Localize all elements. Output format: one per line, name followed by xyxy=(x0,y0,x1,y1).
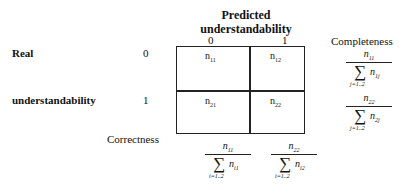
formula-denominator: ∑ n1j j=1..2 xyxy=(346,64,392,86)
sigma-icon: ∑ xyxy=(213,154,225,174)
completeness-formula-row-1: n11 ∑ n1j j=1..2 xyxy=(346,48,392,86)
row-label-real: Real xyxy=(12,47,33,59)
correctness-formula-col-1: n11 ∑ ni1 i=1..2 xyxy=(205,140,251,178)
cell-n21: n21 xyxy=(205,95,216,108)
column-header-1: 1 xyxy=(282,34,288,46)
confusion-matrix: n11 n12 n21 n22 xyxy=(176,46,305,134)
formula-numerator: n11 xyxy=(346,48,392,61)
correctness-formula-col-2: n22 ∑ ni2 i=1..2 xyxy=(271,140,317,178)
row-header-1: 1 xyxy=(143,94,149,106)
sigma-icon: ∑ xyxy=(279,154,291,174)
completeness-formula-row-2: n22 ∑ n2j j=1..2 xyxy=(346,92,392,130)
matrix-horizontal-divider xyxy=(177,90,304,92)
completeness-label: Completeness xyxy=(331,35,393,47)
predicted-title: Predicted understandability xyxy=(196,8,296,37)
formula-numerator: n22 xyxy=(346,92,392,105)
cell-n12: n12 xyxy=(270,50,281,63)
row-header-0: 0 xyxy=(143,47,149,59)
sigma-icon: ∑ xyxy=(354,62,366,82)
row-label-understandability: understandability xyxy=(12,94,96,106)
cell-n11: n11 xyxy=(205,50,216,63)
formula-denominator: ∑ ni2 i=1..2 xyxy=(271,156,317,178)
fraction-bar xyxy=(346,106,392,107)
fraction-bar xyxy=(205,154,251,155)
correctness-label: Correctness xyxy=(107,133,159,145)
formula-numerator: n11 xyxy=(205,140,251,153)
formula-numerator: n22 xyxy=(271,140,317,153)
predicted-title-line1: Predicted xyxy=(196,8,296,23)
fraction-bar xyxy=(271,154,317,155)
formula-denominator: ∑ ni1 i=1..2 xyxy=(205,156,251,178)
fraction-bar xyxy=(346,62,392,63)
sigma-icon: ∑ xyxy=(354,106,366,126)
formula-denominator: ∑ n2j j=1..2 xyxy=(346,108,392,130)
cell-n22: n22 xyxy=(270,95,281,108)
column-header-0: 0 xyxy=(208,34,214,46)
